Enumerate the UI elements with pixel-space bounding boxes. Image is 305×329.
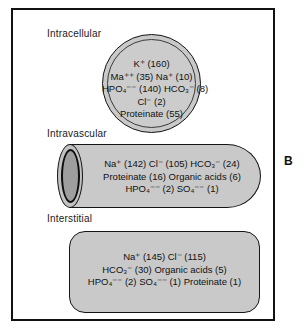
solute-line: Cl⁻ (2) (102, 96, 201, 109)
intravascular-solute-list: Na⁺ (142) Cl⁻ (105) HCO₃⁻ (24) Proteinat… (87, 158, 257, 196)
solute-line: Ma⁺⁺ (35) Na⁺ (10) (102, 71, 201, 84)
compartment-label-intracellular: Intracellular (47, 29, 101, 39)
solute-line: K⁺ (160) (102, 58, 201, 71)
intravascular-vessel-shape: Na⁺ (142) Cl⁻ (105) HCO₃⁻ (24) Proteinat… (57, 144, 261, 208)
intracellular-cell-shape: K⁺ (160) Ma⁺⁺ (35) Na⁺ (10) HPO₄⁻⁻ (140)… (102, 34, 201, 133)
vessel-open-end-lumen (61, 149, 80, 203)
solute-line: Proteinate (16) Organic acids (6) (87, 171, 257, 184)
solute-line: HCO₃⁻ (30) Organic acids (5) (69, 264, 260, 277)
solute-line: Na⁺ (142) Cl⁻ (105) HCO₃⁻ (24) (87, 158, 257, 171)
figure-border: Intracellular K⁺ (160) Ma⁺⁺ (35) Na⁺ (10… (11, 8, 275, 321)
intracellular-solute-list: K⁺ (160) Ma⁺⁺ (35) Na⁺ (10) HPO₄⁻⁻ (140)… (102, 58, 201, 121)
panel-letter-b: B (284, 155, 293, 167)
compartment-label-intravascular: Intravascular (47, 129, 107, 139)
solute-line: HPO₄⁻⁻ (140) HCO₃⁻ (8) (102, 83, 201, 96)
figure-panel: Intracellular K⁺ (160) Ma⁺⁺ (35) Na⁺ (10… (0, 0, 305, 329)
solute-line: HPO₄⁻⁻ (2) SO₄⁻⁻ (1) (87, 183, 257, 196)
compartment-label-interstitial: Interstitial (47, 214, 92, 224)
solute-line: Na⁺ (145) Cl⁻ (115) (69, 251, 260, 264)
interstitial-solute-list: Na⁺ (145) Cl⁻ (115) HCO₃⁻ (30) Organic a… (69, 251, 260, 289)
solute-line: HPO₄⁻⁻ (2) SO₄⁻⁻ (1) Proteinate (1) (69, 276, 260, 289)
solute-line: Proteinate (55) (102, 108, 201, 121)
